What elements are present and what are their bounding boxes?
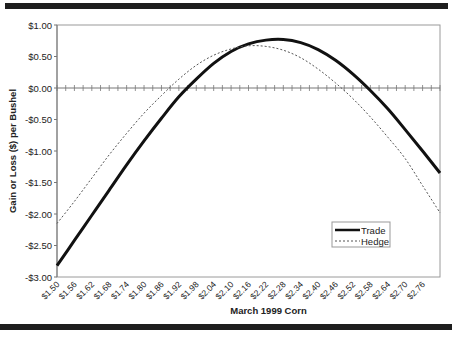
y-tick-label: -$3.00 xyxy=(25,272,52,283)
y-tick-label: -$1.00 xyxy=(25,146,52,157)
x-tick-label: $2.22 xyxy=(248,279,270,301)
y-tick-label: $1.00 xyxy=(28,20,52,31)
x-tick-label: $2.46 xyxy=(318,279,340,301)
y-tick-label: -$0.50 xyxy=(25,114,52,125)
y-tick-label: -$2.50 xyxy=(25,240,52,251)
y-tick-label: -$1.50 xyxy=(25,177,52,188)
bottom-border-bar xyxy=(0,324,452,330)
x-tick-label: $1.50 xyxy=(39,279,61,301)
x-axis-title: March 1999 Corn xyxy=(230,305,307,316)
x-tick-label: $2.40 xyxy=(300,279,322,301)
x-tick-label: $1.68 xyxy=(92,279,114,301)
x-tick-label: $1.98 xyxy=(179,279,201,301)
x-tick-label: $2.34 xyxy=(283,279,305,301)
x-tick-label: $1.86 xyxy=(144,279,166,301)
x-tick-label: $2.16 xyxy=(231,279,253,301)
series-line-hedge xyxy=(57,46,440,224)
x-tick-label: $1.74 xyxy=(109,279,131,301)
x-tick-label: $1.56 xyxy=(57,279,79,301)
x-tick-label: $2.70 xyxy=(387,279,409,301)
x-tick-label: $2.04 xyxy=(196,279,218,301)
x-tick-label: $2.76 xyxy=(405,279,427,301)
x-tick-label: $1.92 xyxy=(161,279,183,301)
legend: TradeHedge xyxy=(332,222,390,247)
x-tick-label: $2.28 xyxy=(266,279,288,301)
legend-label-hedge: Hedge xyxy=(361,236,389,247)
x-tick-label: $2.10 xyxy=(213,279,235,301)
x-tick-label: $2.58 xyxy=(353,279,375,301)
x-tick-label: $2.52 xyxy=(335,279,357,301)
x-tick-label: $1.62 xyxy=(74,279,96,301)
x-tick-label: $1.80 xyxy=(126,279,148,301)
y-tick-label: $0.00 xyxy=(28,83,52,94)
x-tick-label: $2.64 xyxy=(370,279,392,301)
y-axis-title: Gain or Loss ($) per Bushel xyxy=(7,89,18,213)
legend-label-trade: Trade xyxy=(361,225,385,236)
y-tick-label: $0.50 xyxy=(28,51,52,62)
y-tick-label: -$2.00 xyxy=(25,209,52,220)
payoff-chart: $1.00$0.50$0.00-$0.50-$1.00-$1.50-$2.00-… xyxy=(0,0,452,338)
